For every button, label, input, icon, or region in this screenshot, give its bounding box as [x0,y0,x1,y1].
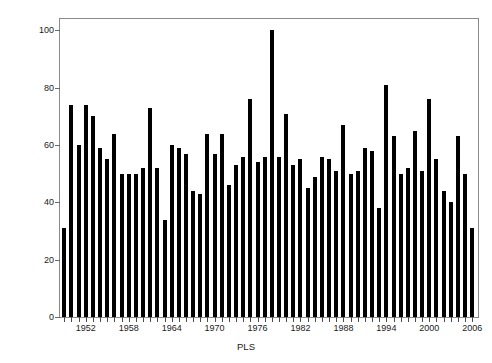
y-axis-tick [55,30,60,31]
x-axis-tick [107,317,108,322]
x-axis-tick [79,317,80,322]
y-axis-tick [55,88,60,89]
x-axis-tick-label: 1982 [280,323,320,333]
x-axis-tick [351,317,352,322]
x-axis-tick [129,317,130,322]
x-axis-tick [207,317,208,322]
x-axis-tick [386,317,387,322]
x-axis-tick [272,317,273,322]
bar [77,145,81,317]
x-axis-tick-label: 1988 [323,323,363,333]
x-axis-tick-label: 1964 [152,323,192,333]
bar [334,171,338,317]
x-axis-tick-label: 1976 [238,323,278,333]
x-axis-tick [401,317,402,322]
bar [442,191,446,317]
y-axis-tick-label: 100 [14,25,54,35]
bar [234,165,238,317]
bar [327,159,331,317]
bar [134,174,138,317]
x-axis-tick [229,317,230,322]
bar [349,174,353,317]
x-axis-tick [179,317,180,322]
x-axis-tick [358,317,359,322]
y-axis-tick-label: 0 [14,312,54,322]
bar [248,99,252,317]
bar [277,157,281,317]
y-axis-tick-label: 80 [14,83,54,93]
x-axis-tick [415,317,416,322]
bar [62,228,66,317]
x-axis-tick [172,317,173,322]
bar [413,131,417,317]
bar [141,168,145,317]
x-axis-tick [250,317,251,322]
bar [191,191,195,317]
bar [170,145,174,317]
x-axis-tick [300,317,301,322]
x-axis-tick [243,317,244,322]
x-axis-tick [465,317,466,322]
x-axis-tick [429,317,430,322]
x-axis-tick [308,317,309,322]
x-axis-tick [451,317,452,322]
x-axis-tick [215,317,216,322]
bar [434,159,438,317]
x-axis-tick [258,317,259,322]
y-axis-tick [55,317,60,318]
x-axis-tick [286,317,287,322]
bar [363,148,367,317]
x-axis-tick-label: 1970 [195,323,235,333]
x-axis-tick [472,317,473,322]
x-axis-tick [315,317,316,322]
x-axis-tick [100,317,101,322]
y-axis-tick-label: 40 [14,197,54,207]
bar [470,228,474,317]
x-axis-tick [136,317,137,322]
bar [306,188,310,317]
bar [370,151,374,317]
x-axis-tick [436,317,437,322]
x-axis-tick [193,317,194,322]
x-axis-tick [322,317,323,322]
x-axis-tick [157,317,158,322]
y-axis-tick [55,260,60,261]
x-axis-tick [114,317,115,322]
bar [399,174,403,317]
x-axis-tick [408,317,409,322]
y-axis-tick-label: 60 [14,140,54,150]
bar-series [60,19,478,317]
x-axis-tick [122,317,123,322]
bar [406,168,410,317]
y-axis-tick-label: 20 [14,255,54,265]
bar [205,134,209,317]
x-axis-tick [336,317,337,322]
bar [449,202,453,317]
bar [341,125,345,317]
bar [384,85,388,317]
bar [84,105,88,317]
x-axis-tick [222,317,223,322]
bar [241,157,245,317]
x-axis-tick [200,317,201,322]
x-axis-tick-label: 2006 [452,323,492,333]
bar [392,136,396,317]
x-axis-tick [458,317,459,322]
x-axis-tick [365,317,366,322]
x-axis-tick [329,317,330,322]
bar [284,114,288,317]
bar [256,162,260,317]
bar [463,174,467,317]
bar [220,134,224,317]
x-axis-tick [64,317,65,322]
chart-figure: Number of detected cases 020406080100 19… [0,0,492,363]
bar [377,208,381,317]
x-axis-tick [379,317,380,322]
bar [112,134,116,317]
bar [313,177,317,317]
x-axis-tick [394,317,395,322]
x-axis-tick [86,317,87,322]
bar [227,185,231,317]
bar [98,148,102,317]
x-axis-tick [165,317,166,322]
